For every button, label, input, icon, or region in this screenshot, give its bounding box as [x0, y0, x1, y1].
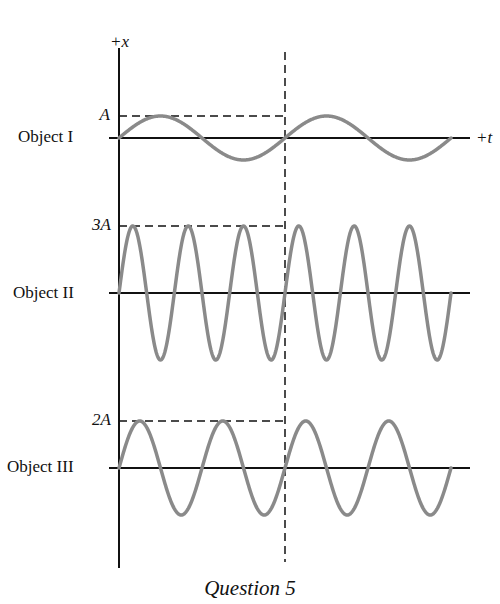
- amplitude-a-label: A: [80, 105, 110, 125]
- figure-caption: Question 5: [0, 576, 500, 601]
- amplitude-3a-label: 3A: [80, 215, 111, 235]
- amplitude-2a-label: 2A: [80, 410, 111, 430]
- object-ii-label: Object II: [13, 283, 74, 303]
- x-axis-label: +x: [110, 32, 129, 52]
- t-axis-label: +t: [476, 128, 492, 148]
- oscillation-diagram: [0, 0, 500, 604]
- object-i-label: Object I: [18, 127, 73, 147]
- object-iii-label: Object III: [7, 457, 74, 477]
